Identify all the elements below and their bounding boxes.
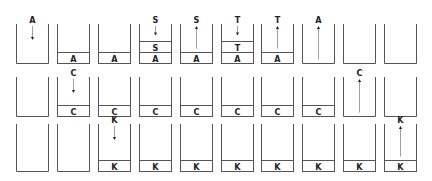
stack-container [385, 24, 417, 64]
stack-container: C [222, 77, 254, 117]
stack-cell-label: A [111, 54, 118, 64]
operation-label: K [397, 115, 404, 125]
container-walls [385, 24, 417, 64]
stack-container: ASS [140, 15, 172, 64]
stack-cell-label: A [193, 54, 200, 64]
stack-container [344, 24, 376, 64]
stack-container [17, 124, 49, 172]
stack-cell-label: A [274, 54, 281, 64]
stack-cell-label: S [153, 43, 159, 53]
stack-cell-label: C [71, 107, 77, 117]
stack-cell-label: C [316, 107, 322, 117]
stack-container: K [262, 124, 294, 172]
operation-label: C [357, 68, 363, 78]
push-arrow-icon [31, 37, 34, 40]
stack-cell-label: C [235, 107, 241, 117]
stack-container: K [303, 124, 335, 172]
container-walls [17, 77, 49, 117]
push-arrow-icon [72, 90, 75, 93]
operation-label: A [29, 15, 36, 25]
row-1: AAAASSASATTATA [17, 15, 417, 64]
operation-label: A [315, 15, 322, 25]
stack-cell-label: A [234, 54, 241, 64]
row-2: CCCCCCCCC [17, 68, 417, 117]
container-walls [58, 124, 90, 172]
push-arrow-icon [154, 33, 157, 36]
operation-label: C [71, 68, 77, 78]
stack-container: C [99, 77, 131, 117]
pop-arrow-icon [358, 79, 361, 82]
push-arrow-icon [236, 33, 239, 36]
stack-cell-label: C [194, 107, 200, 117]
stack-container: A [58, 24, 90, 64]
stack-cell-label: K [111, 162, 118, 172]
stack-container [58, 124, 90, 172]
stack-cell-label: K [193, 162, 200, 172]
stack-cell-label: K [234, 162, 241, 172]
stack-cell-label: A [70, 54, 77, 64]
stack-container: C [140, 77, 172, 117]
stack-container: K [222, 124, 254, 172]
stack-container: A [17, 15, 49, 64]
stack-container [17, 77, 49, 117]
stack-cell-label: C [153, 107, 159, 117]
stack-container: K [344, 124, 376, 172]
stack-cell-label: K [274, 162, 281, 172]
stack-container: KK [385, 115, 417, 172]
operation-label: T [275, 15, 281, 25]
stack-cell-label: T [235, 43, 241, 53]
stack-cell-label: K [315, 162, 322, 172]
container-walls [17, 124, 49, 172]
operation-label: K [111, 115, 118, 125]
operation-label: S [153, 15, 159, 25]
stack-cell-label: K [356, 162, 363, 172]
operation-label: T [235, 15, 241, 25]
stack-container: K [140, 124, 172, 172]
pop-arrow-icon [195, 26, 198, 29]
stack-container: C [262, 77, 294, 117]
stack-diagram: AAAASSASATTATACCCCCCCCCKKKKKKKKKK [0, 0, 432, 181]
stack-cell-label: A [152, 54, 159, 64]
row-3: KKKKKKKKKK [17, 115, 417, 172]
stack-diagram-svg: AAAASSASATTATACCCCCCCCCKKKKKKKKKK [0, 0, 432, 181]
stack-container: KK [99, 115, 131, 172]
stack-container: C [344, 68, 376, 117]
stack-container: AT [262, 15, 294, 64]
stack-cell-label: K [397, 162, 404, 172]
stack-container: AS [181, 15, 213, 64]
pop-arrow-icon [276, 26, 279, 29]
stack-container: C [181, 77, 213, 117]
pop-arrow-icon [317, 26, 320, 29]
stack-cell-label: K [152, 162, 159, 172]
stack-container [385, 77, 417, 117]
container-walls [385, 77, 417, 117]
stack-container: K [181, 124, 213, 172]
stack-cell-label: C [275, 107, 281, 117]
pop-arrow-icon [399, 126, 402, 129]
stack-container: ATT [222, 15, 254, 64]
stack-container: A [99, 24, 131, 64]
stack-container: A [303, 15, 335, 64]
push-arrow-icon [113, 137, 116, 140]
stack-container: CC [58, 68, 90, 117]
stack-container: C [303, 77, 335, 117]
container-walls [344, 24, 376, 64]
operation-label: S [194, 15, 200, 25]
